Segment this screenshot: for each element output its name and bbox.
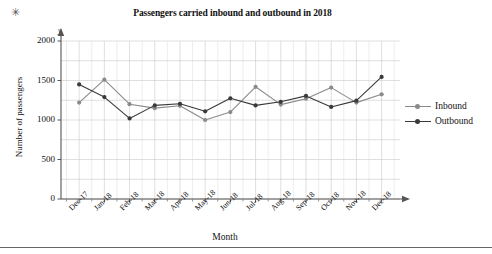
data-point <box>127 116 131 120</box>
y-tick-label: 0 <box>21 193 55 203</box>
data-point <box>329 86 333 90</box>
grid-lines <box>61 41 400 199</box>
data-point <box>77 82 81 86</box>
legend-marker-icon <box>405 117 431 126</box>
data-point <box>102 95 106 99</box>
legend-item-outbound[interactable]: Outbound <box>405 114 473 129</box>
y-tick-label: 2000 <box>21 35 55 45</box>
y-tick-label: 1000 <box>21 114 55 124</box>
data-point <box>203 109 207 113</box>
data-point <box>127 102 131 106</box>
data-point <box>380 75 384 79</box>
footer-divider <box>0 247 492 248</box>
chart-figure: ✳ Passengers carried inbound and outboun… <box>0 0 492 254</box>
data-point <box>253 103 257 107</box>
y-tick-label: 500 <box>21 154 55 164</box>
data-point <box>203 118 207 122</box>
legend-label: Outbound <box>435 116 473 127</box>
y-tick-label: 1500 <box>21 75 55 85</box>
axes <box>58 28 410 202</box>
data-point <box>153 103 157 107</box>
data-point <box>228 96 232 100</box>
data-point <box>380 92 384 96</box>
data-point <box>253 85 257 89</box>
legend-item-inbound[interactable]: Inbound <box>405 99 473 114</box>
data-point <box>228 110 232 114</box>
data-point <box>279 100 283 104</box>
data-point <box>354 99 358 103</box>
legend-marker-icon <box>405 102 431 111</box>
data-point <box>304 94 308 98</box>
data-point <box>77 101 81 105</box>
chart-legend: InboundOutbound <box>405 99 473 129</box>
legend-label: Inbound <box>435 101 467 112</box>
data-point <box>329 105 333 109</box>
data-point <box>102 78 106 82</box>
data-point <box>178 102 182 106</box>
